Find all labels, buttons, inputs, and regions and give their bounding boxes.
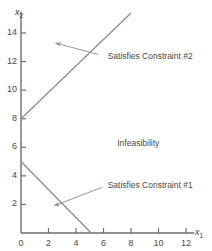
x-tick-label-12: 12 — [178, 239, 194, 248]
annotation-satisfies-constraint-2: Satisfies Constraint #2 — [108, 52, 193, 61]
chart-canvas — [0, 0, 212, 251]
annotation-arrow-satisfies-constraint-2 — [55, 43, 98, 54]
annotation-satisfies-constraint-1: Satisfies Constraint #1 — [108, 181, 193, 190]
x-tick-label-0: 0 — [13, 239, 29, 248]
y-tick-label-8: 8 — [2, 114, 17, 123]
y-tick-label-10: 10 — [2, 85, 17, 94]
y-tick-label-6: 6 — [2, 142, 17, 151]
y-axis-title: x2 — [15, 8, 23, 19]
x-tick-label-6: 6 — [96, 239, 112, 248]
constraint-line-2 — [21, 13, 131, 119]
chart-figure: x2 x1 2468101214024681012Satisfies Const… — [0, 0, 212, 251]
y-tick-label-14: 14 — [2, 28, 17, 37]
x-axis-title: x1 — [195, 228, 203, 239]
x-tick-label-10: 10 — [151, 239, 167, 248]
x-tick-label-2: 2 — [41, 239, 57, 248]
y-tick-label-12: 12 — [2, 57, 17, 66]
x-tick-label-8: 8 — [123, 239, 139, 248]
annotation-infeasibility: Infeasibility — [117, 139, 159, 148]
annotation-arrow-satisfies-constraint-1 — [54, 187, 102, 206]
constraint-line-1 — [21, 162, 91, 233]
y-axis-title-subscript: 2 — [20, 12, 24, 19]
x-tick-label-4: 4 — [68, 239, 84, 248]
x-axis-title-subscript: 1 — [200, 232, 204, 239]
y-tick-label-4: 4 — [2, 171, 17, 180]
y-tick-label-2: 2 — [2, 199, 17, 208]
